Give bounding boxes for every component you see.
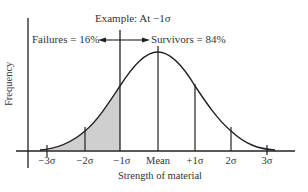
tick-label-plus2: 2σ (226, 155, 237, 166)
x-axis-label: Strength of material (118, 170, 202, 181)
tick-label-minus3: −3σ (39, 155, 56, 166)
arrowhead-right-icon (142, 38, 150, 43)
tick-label-minus2: −2σ (77, 155, 94, 166)
chart-title: Example: At −1σ (95, 12, 171, 24)
tick-label-plus1: +1σ (187, 155, 204, 166)
tick-label-mean: Mean (146, 155, 170, 166)
failures-label: Failures = 16% (32, 33, 99, 45)
survivors-label: Survivors = 84% (151, 33, 226, 45)
failures-shaded-area (44, 86, 120, 150)
tick-label-minus1: −1σ (114, 155, 131, 166)
tick-label-plus3: 3σ (262, 155, 273, 166)
y-axis-label: Frequency (3, 62, 14, 106)
